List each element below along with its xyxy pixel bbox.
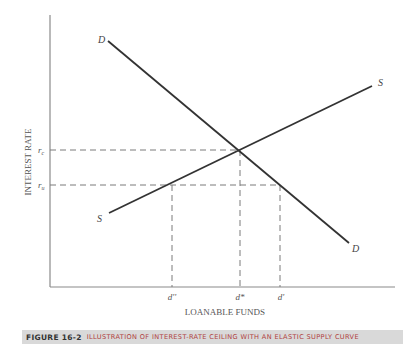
figure-title: Illustration of Interest-Rate Ceiling wi…	[87, 333, 359, 341]
dprime-tick-label: d'	[278, 292, 286, 302]
figure-caption: FIGURE 16-2 Illustration of Interest-Rat…	[22, 330, 403, 344]
demand-curve	[108, 41, 349, 243]
dstar-tick-label: d*	[236, 292, 246, 302]
figure-number: FIGURE 16-2	[26, 333, 82, 342]
dpp-tick-label: d''	[168, 292, 177, 302]
ru-sub: u	[42, 185, 45, 191]
demand-label-bottom: D	[351, 243, 360, 254]
y-axis-title: INTEREST RATE	[23, 128, 33, 196]
x-axis-title: LOANABLE FUNDS	[185, 307, 265, 317]
chart-svg: D D S S rc ru d'' d* d' LOANABLE FUNDS I…	[0, 0, 417, 320]
chart: D D S S rc ru d'' d* d' LOANABLE FUNDS I…	[0, 0, 417, 320]
rc-tick-label: rc	[38, 145, 45, 156]
reference-lines	[50, 150, 280, 287]
supply-label-bottom: S	[97, 213, 102, 224]
ru-tick-label: ru	[38, 180, 45, 191]
demand-label-top: D	[97, 34, 106, 45]
rc-sub: c	[42, 150, 45, 156]
supply-label-top: S	[378, 77, 383, 88]
